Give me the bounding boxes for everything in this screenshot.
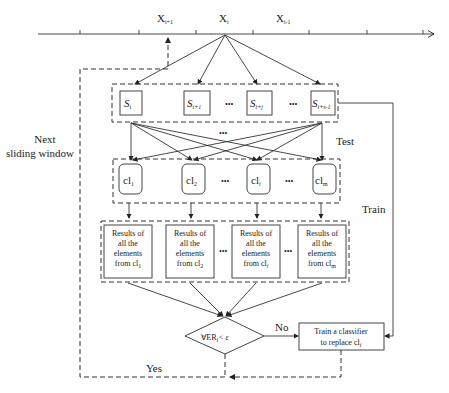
svg-text:all the: all the: [118, 239, 138, 248]
result-box: Results of all the elements from cli: [232, 225, 280, 278]
svg-text:from cli: from cli: [244, 259, 269, 269]
result-box: Results of all the elements from cl1: [104, 225, 152, 278]
ellipsis: •••: [221, 177, 230, 186]
converge-arrows: [128, 283, 322, 316]
next-window-label-line2: sliding window: [6, 147, 74, 159]
svg-text:Results of: Results of: [174, 229, 207, 238]
test-label: Test: [336, 135, 354, 147]
ellipsis: •••: [219, 129, 228, 138]
timeline-label-x-i-plus-1: Xi+1: [157, 12, 173, 25]
svg-text:to replace cli: to replace cli: [321, 338, 362, 348]
ellipsis: •••: [289, 100, 298, 109]
classifiers: cl1 cl2 ••• cli ••• clm: [119, 164, 336, 194]
yes-label: Yes: [146, 362, 162, 374]
timeline-label-x-i-minus-1: Xi-1: [276, 12, 291, 25]
flowchart: Xi+1 Xi Xi-1 Si Si+1 ••• Si+j ••• Si+s-1…: [0, 0, 449, 393]
svg-text:elements: elements: [242, 249, 270, 258]
svg-text:Train a classifier: Train a classifier: [314, 327, 368, 336]
ellipsis: •••: [225, 100, 234, 109]
no-label: No: [275, 321, 289, 333]
ellipsis: •••: [285, 177, 294, 186]
svg-text:Results of: Results of: [240, 229, 273, 238]
svg-text:elements: elements: [176, 249, 204, 258]
train-return-edge: [230, 350, 341, 377]
svg-text:all the: all the: [180, 239, 200, 248]
decision-label: ∀ERi< ε: [201, 333, 229, 343]
svg-text:elements: elements: [114, 249, 142, 258]
timeline-label-x-i: Xi: [219, 12, 229, 25]
result-arrows: [129, 203, 321, 218]
svg-text:Results of: Results of: [306, 229, 339, 238]
svg-text:all the: all the: [246, 239, 266, 248]
next-window-label-line1: Next: [34, 133, 55, 145]
result-box: Results of all the elements from cl2: [166, 225, 214, 278]
svg-text:from cl2: from cl2: [177, 259, 203, 269]
results: Results of all the elements from cl1 Res…: [104, 225, 346, 278]
train-label: Train: [362, 203, 386, 215]
train-classifier-box: Train a classifier to replace cli: [299, 323, 384, 350]
svg-text:Results of: Results of: [112, 229, 145, 238]
samples: Si Si+1 ••• Si+j ••• Si+s-1: [120, 91, 335, 115]
ellipsis: •••: [284, 247, 293, 256]
test-arrows: •••: [131, 123, 322, 160]
timeline: Xi+1 Xi Xi-1: [38, 12, 434, 34]
result-box: Results of all the elements from clm: [298, 225, 346, 278]
timeline-ticks: [80, 30, 423, 34]
svg-text:from cl1: from cl1: [115, 259, 141, 269]
fanout-arrows: [135, 35, 320, 84]
svg-text:all the: all the: [312, 239, 332, 248]
ellipsis: •••: [219, 247, 228, 256]
decision-node: ∀ERi< ε: [185, 317, 264, 354]
svg-text:elements: elements: [308, 249, 336, 258]
next-window-loop: [80, 38, 225, 377]
